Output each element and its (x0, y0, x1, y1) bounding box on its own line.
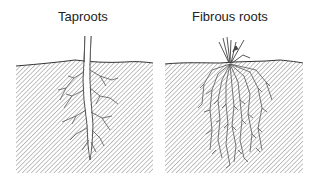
taproot-panel (16, 36, 153, 173)
roots-diagram (0, 0, 312, 186)
grass-tuft-icon (219, 37, 250, 63)
fibrous-root-panel (165, 37, 303, 173)
